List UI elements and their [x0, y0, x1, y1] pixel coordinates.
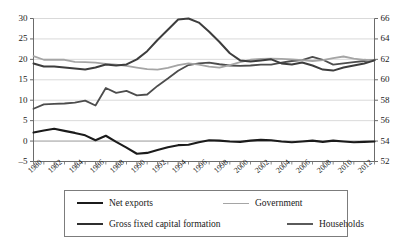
y-axis-right-tick-label: 56: [381, 116, 390, 125]
y-axis-left-tick-label: 30: [0, 14, 28, 23]
legend-item[interactable]: Gross fixed capital formation: [77, 215, 221, 233]
chart-legend: Net exportsGovernmentGross fixed capital…: [64, 190, 348, 237]
y-axis-right-tick-label: 64: [381, 34, 390, 43]
legend-line-swatch-icon: [77, 223, 103, 225]
y-axis-left-tick-label: 20: [0, 55, 28, 64]
legend-item-label: Net exports: [109, 198, 153, 208]
chart-container: Net exportsGovernmentGross fixed capital…: [0, 0, 409, 246]
legend-item[interactable]: Government: [223, 194, 303, 212]
y-axis-right-tick-label: 58: [381, 96, 390, 105]
legend-line-swatch-icon: [77, 202, 103, 204]
y-axis-right-tick-label: 52: [381, 157, 390, 166]
y-axis-left-tick-label: 0: [0, 137, 28, 146]
y-axis-left-tick-label: 10: [0, 96, 28, 105]
y-axis-left-tick-label: 5: [0, 116, 28, 125]
y-axis-left-tick-label: 25: [0, 34, 28, 43]
legend-item[interactable]: Households: [287, 215, 364, 233]
y-axis-right-tick-label: 66: [381, 14, 390, 23]
y-axis-right-tick-label: 54: [381, 137, 390, 146]
y-axis-right-tick-label: 62: [381, 55, 390, 64]
legend-item-label: Government: [255, 198, 303, 208]
legend-line-swatch-icon: [287, 223, 313, 225]
y-axis-left-tick-label: 15: [0, 75, 28, 84]
y-axis-left-tick-label: –5: [0, 157, 28, 166]
legend-item-label: Gross fixed capital formation: [109, 219, 221, 229]
y-axis-right-tick-label: 60: [381, 75, 390, 84]
legend-item[interactable]: Net exports: [77, 194, 153, 212]
legend-line-swatch-icon: [223, 203, 249, 204]
legend-item-label: Households: [319, 219, 364, 229]
